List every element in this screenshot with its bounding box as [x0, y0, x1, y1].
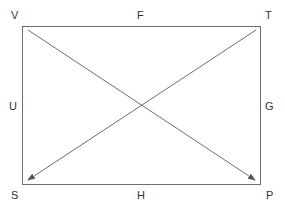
edge-label-top: F — [137, 9, 144, 21]
corner-label-bottom-left: S — [11, 189, 18, 201]
edge-label-right: G — [265, 100, 274, 112]
diagram-canvas: V F T U G S H P — [0, 0, 285, 208]
edge-label-bottom: H — [137, 189, 145, 201]
corner-label-top-right: T — [265, 9, 272, 21]
corner-label-top-left: V — [11, 9, 19, 21]
corner-label-bottom-right: P — [266, 189, 273, 201]
edge-label-left: U — [9, 100, 17, 112]
